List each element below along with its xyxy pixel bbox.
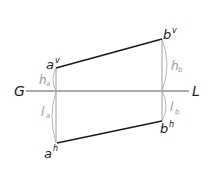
label-b-horizontal: b h: [160, 120, 174, 136]
label-a-horizontal: a h: [44, 144, 58, 161]
label-b-vertical: b v: [163, 26, 177, 42]
svg-text:b: b: [163, 27, 171, 42]
dimension-arc-l-a: [52, 91, 56, 143]
svg-text:v: v: [55, 56, 60, 65]
svg-text:b: b: [175, 108, 180, 116]
vertical-projection-segment: [56, 39, 162, 68]
dimension-label-h-b: h b: [171, 59, 183, 74]
svg-text:a: a: [46, 112, 50, 120]
dimension-arc-h-b: [162, 39, 167, 91]
svg-text:b: b: [160, 121, 168, 136]
svg-text:a: a: [46, 80, 50, 88]
label-a-vertical: a v: [46, 56, 60, 72]
svg-text:l: l: [170, 100, 174, 114]
ground-line-label-g: G: [14, 83, 25, 99]
svg-text:a: a: [46, 57, 54, 72]
ground-line-label-l: L: [192, 83, 200, 99]
svg-text:b: b: [178, 66, 183, 74]
svg-text:h: h: [53, 144, 58, 153]
horizontal-projection-segment: [57, 121, 162, 143]
svg-text:l: l: [41, 105, 45, 119]
dimension-arc-l-b: [162, 91, 166, 121]
dimension-label-h-a: h a: [39, 73, 50, 88]
svg-text:v: v: [172, 26, 177, 35]
descriptive-geometry-diagram: G L a v b v a h b h h a l a h b l b: [0, 0, 213, 172]
dimension-label-l-a: l a: [41, 105, 50, 120]
dimension-label-l-b: l b: [170, 100, 180, 116]
svg-text:h: h: [169, 120, 174, 129]
svg-text:a: a: [44, 146, 52, 161]
